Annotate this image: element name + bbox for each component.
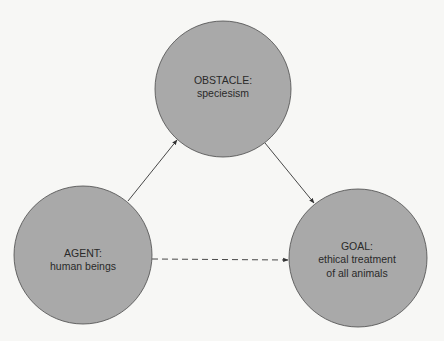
node-obstacle-text: speciesism	[197, 87, 249, 99]
edge-agent-to-goal-dashed	[152, 259, 288, 260]
edge-agent-to-obstacle	[128, 140, 177, 201]
node-agent-title: AGENT:	[64, 247, 102, 259]
node-agent-text: human beings	[50, 260, 116, 272]
node-agent: AGENT: human beings	[14, 186, 152, 324]
edge-obstacle-to-goal	[265, 143, 314, 203]
node-goal: GOAL: ethical treatment of all animals	[289, 189, 427, 327]
node-goal-text-line2: of all animals	[326, 267, 387, 279]
node-goal-text-line1: ethical treatment	[318, 253, 396, 265]
diagram-canvas: OBSTACLE: speciesism AGENT: human beings…	[0, 0, 444, 341]
node-obstacle-title: OBSTACLE:	[194, 74, 252, 86]
node-obstacle: OBSTACLE: speciesism	[155, 21, 291, 157]
node-goal-title: GOAL:	[341, 240, 373, 252]
